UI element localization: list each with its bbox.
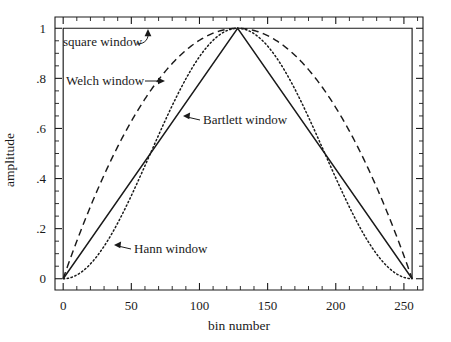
curve-bartlett-window [63, 28, 412, 278]
annotation-welch-window: Welch window [66, 73, 165, 88]
y-tick-label: 0 [40, 271, 47, 286]
y-tick-label: .4 [36, 171, 46, 186]
data-curves [63, 28, 412, 278]
y-axis-title: amplitude [2, 133, 17, 187]
y-tick-label: 1 [40, 21, 47, 36]
x-tick-label: 200 [326, 298, 346, 313]
annotation-square-window: square window [63, 29, 151, 49]
arrowhead-hann-window [114, 242, 121, 249]
x-tick-label: 100 [190, 298, 210, 313]
arrowhead-square-window [145, 29, 152, 36]
label-square-window: square window [63, 34, 143, 49]
x-tick-label: 50 [125, 298, 138, 313]
x-axis-title: bin number [208, 318, 270, 333]
curve-hann-window [63, 28, 412, 278]
annotation-bartlett-window: Bartlett window [183, 112, 288, 127]
y-tick-label: .6 [36, 121, 46, 136]
x-tick-label: 0 [60, 298, 67, 313]
plot-canvas: 050100150200250 0.2.4.6.81 bin number am… [0, 0, 451, 342]
arrowhead-welch-window [158, 78, 165, 84]
window-functions-figure: 050100150200250 0.2.4.6.81 bin number am… [0, 0, 451, 342]
y-tick-label: .2 [36, 221, 46, 236]
label-welch-window: Welch window [66, 73, 145, 88]
label-hann-window: Hann window [134, 241, 208, 256]
x-axis-major-ticks [63, 17, 404, 290]
curve-square-window [63, 28, 412, 278]
y-axis-tick-labels: 0.2.4.6.81 [36, 21, 46, 286]
label-bartlett-window: Bartlett window [203, 112, 288, 127]
curve-welch-window [63, 28, 412, 278]
arrowhead-bartlett-window [183, 113, 190, 120]
x-tick-label: 150 [258, 298, 278, 313]
x-axis-minor-ticks [77, 17, 418, 290]
y-tick-label: .8 [36, 71, 46, 86]
x-tick-label: 250 [394, 298, 414, 313]
axis-frame [55, 17, 423, 290]
x-axis-tick-labels: 050100150200250 [60, 298, 414, 313]
annotation-hann-window: Hann window [114, 241, 208, 256]
